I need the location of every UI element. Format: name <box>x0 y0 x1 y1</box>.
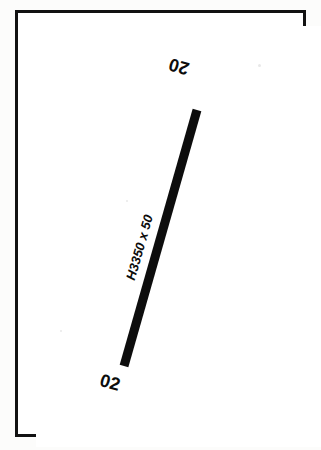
scan-speckle <box>126 200 128 202</box>
runway-graphic <box>0 0 321 450</box>
scan-speckle <box>258 64 261 67</box>
runway-diagram-root: 20 02 H3350 x 50 <box>0 0 321 450</box>
scan-speckle <box>60 330 62 332</box>
